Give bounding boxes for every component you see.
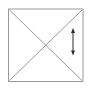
geometry-figure-svg	[0, 0, 90, 93]
dimension-arrow-head-up-icon	[71, 28, 75, 33]
dimension-arrow-head-down-icon	[71, 51, 75, 56]
geometry-figure-container: Square with both diagonals and a vertica…	[0, 0, 90, 93]
